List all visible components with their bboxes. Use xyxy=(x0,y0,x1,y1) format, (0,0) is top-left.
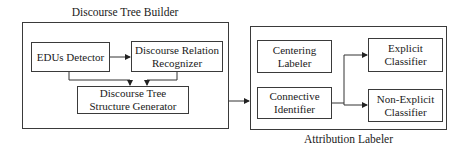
attribution-labeler-title: Attribution Labeler xyxy=(250,133,447,145)
edus-detector-label: EDUs Detector xyxy=(37,51,105,64)
discourse-tree-structure-generator-node: Discourse Tree Structure Generator xyxy=(77,86,189,114)
discourse-relation-recognizer-label: Discourse Relation Recognizer xyxy=(134,44,220,70)
centering-labeler-node: Centering Labeler xyxy=(257,40,332,73)
connective-identifier-label: Connective Identifier xyxy=(260,90,329,116)
explicit-classifier-node: Explicit Classifier xyxy=(368,38,443,72)
discourse-relation-recognizer-node: Discourse Relation Recognizer xyxy=(131,41,223,72)
non-explicit-classifier-label: Non-Explicit Classifier xyxy=(371,93,440,119)
edus-detector-node: EDUs Detector xyxy=(31,42,110,72)
centering-labeler-label: Centering Labeler xyxy=(260,44,329,70)
non-explicit-classifier-node: Non-Explicit Classifier xyxy=(368,89,443,122)
connective-identifier-node: Connective Identifier xyxy=(257,87,332,119)
explicit-classifier-label: Explicit Classifier xyxy=(371,42,440,68)
discourse-tree-builder-title: Discourse Tree Builder xyxy=(22,6,228,18)
discourse-tree-structure-generator-label: Discourse Tree Structure Generator xyxy=(80,87,186,113)
